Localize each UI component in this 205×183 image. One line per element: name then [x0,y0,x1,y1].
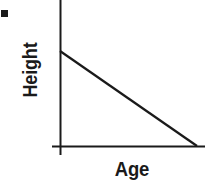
x-axis-title: Age [115,157,149,181]
y-axis-title: Height [18,42,42,97]
trend-line-series [60,51,197,146]
chart-figure: Height Age [0,0,205,183]
